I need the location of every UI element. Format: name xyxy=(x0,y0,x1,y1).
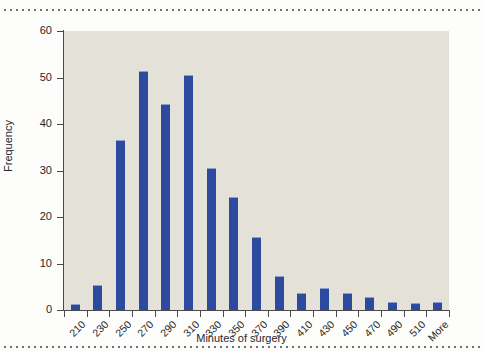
histogram-figure: 0102030405060 Frequency 2102302502702903… xyxy=(0,0,483,352)
x-axis-tick xyxy=(155,311,156,317)
y-axis-tick xyxy=(57,78,64,79)
x-axis-tick xyxy=(64,311,65,317)
x-axis-tick xyxy=(404,311,405,317)
x-axis-tick xyxy=(381,311,382,317)
bar xyxy=(343,293,352,310)
bar xyxy=(93,285,102,310)
bar xyxy=(252,237,261,310)
x-axis-tick xyxy=(336,311,337,317)
y-axis-tick-label: 0 xyxy=(0,303,52,315)
bar xyxy=(207,168,216,310)
bar xyxy=(184,75,193,310)
bar xyxy=(411,303,420,310)
y-axis-tick xyxy=(57,31,64,32)
x-axis-tick xyxy=(223,311,224,317)
bar xyxy=(388,302,397,310)
x-axis-tick xyxy=(132,311,133,317)
bar xyxy=(275,276,284,310)
x-axis-tick xyxy=(426,311,427,317)
x-axis-tick xyxy=(313,311,314,317)
bar-series xyxy=(64,31,449,310)
y-axis-tick xyxy=(57,171,64,172)
bar xyxy=(297,293,306,310)
bar xyxy=(116,140,125,310)
bar xyxy=(433,302,442,310)
x-axis-tick xyxy=(268,311,269,317)
bar xyxy=(365,297,374,310)
x-axis-tick xyxy=(358,311,359,317)
x-axis-ticks xyxy=(64,311,449,318)
x-axis-tick xyxy=(200,311,201,317)
y-axis-tick xyxy=(57,124,64,125)
y-axis-tick-label: 60 xyxy=(0,24,52,36)
x-axis-tick xyxy=(449,311,450,317)
dotted-rule-top-divider xyxy=(2,9,481,11)
chart-canvas: 0102030405060 Frequency 2102302502702903… xyxy=(0,22,483,322)
x-axis-tick xyxy=(290,311,291,317)
x-axis-tick xyxy=(177,311,178,317)
x-axis-tick xyxy=(245,311,246,317)
bar xyxy=(139,71,148,310)
y-axis-tick xyxy=(57,264,64,265)
x-axis-tick xyxy=(109,311,110,317)
y-axis-tick-label: 10 xyxy=(0,257,52,269)
bar xyxy=(71,304,80,310)
y-axis-tick xyxy=(57,310,64,311)
x-axis-title: Minutes of surgery xyxy=(0,332,483,344)
bar xyxy=(161,104,170,310)
bar xyxy=(320,288,329,310)
y-axis-tick xyxy=(57,217,64,218)
x-axis-tick xyxy=(87,311,88,317)
y-axis-title: Frequency xyxy=(2,76,14,216)
bar xyxy=(229,197,238,310)
